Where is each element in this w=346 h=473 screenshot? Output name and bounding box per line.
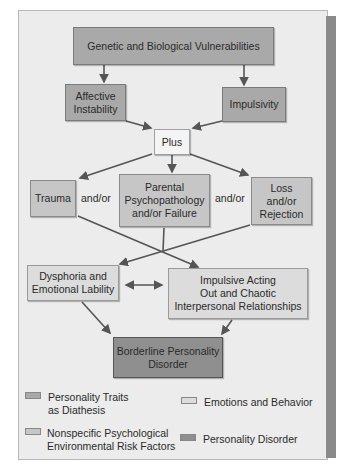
node-trauma: Trauma (30, 180, 76, 217)
legend-swatch-disorder (180, 434, 196, 441)
page-edge-shadow (326, 16, 336, 458)
node-dysphoria: Dysphoria and Emotional Lability (27, 265, 119, 301)
legend-label-traits: Personality Traits as Diathesis (48, 391, 129, 417)
node-impulsivity: Impulsivity (222, 87, 286, 122)
node-impulsive-acting-out: Impulsive Acting Out and Chaotic Interpe… (168, 268, 308, 319)
legend-label-disorder: Personality Disorder (203, 433, 298, 446)
node-affective-instability: Affective Instability (65, 84, 126, 121)
node-loss-rejection: Loss and/or Rejection (251, 177, 312, 225)
node-plus: Plus (154, 129, 190, 155)
legend-label-risk-factors: Nonspecific Psychological Environmental … (47, 427, 175, 453)
legend-label-emotions: Emotions and Behavior (204, 396, 313, 409)
legend-swatch-emotions (181, 397, 197, 404)
node-borderline-personality-disorder: Borderline Personality Disorder (113, 337, 223, 378)
legend-swatch-traits (25, 392, 41, 399)
node-genetic-vulnerabilities: Genetic and Biological Vulnerabilities (73, 27, 274, 65)
legend-swatch-risk-factors (25, 428, 41, 435)
node-parental-psychopathology: Parental Psychopathology and/or Failure (119, 174, 210, 227)
and-or-label-left: and/or (81, 192, 111, 204)
and-or-label-right: and/or (215, 192, 245, 204)
